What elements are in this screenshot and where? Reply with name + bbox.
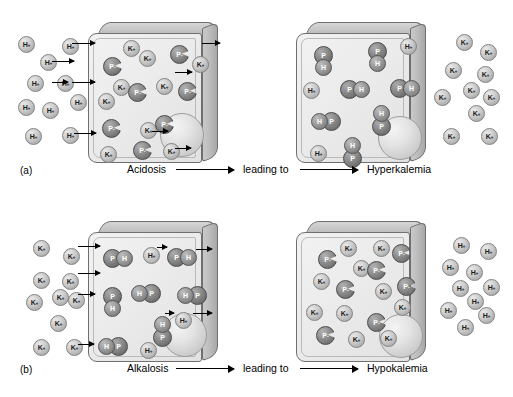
caption-acidosis: Acidosis <box>127 163 166 175</box>
protein-hydrogen-complex: PH <box>102 287 121 316</box>
potassium-ion-extracellular: K+ <box>463 82 480 99</box>
movement-arrow <box>157 247 167 248</box>
potassium-ion-intracellular: K+ <box>156 78 173 95</box>
hydrogen-ion-extracellular: H+ <box>18 36 35 53</box>
potassium-ion-extracellular: K+ <box>33 272 50 289</box>
hydrogen-ion-extracellular: H+ <box>40 54 57 71</box>
potassium-ion-extracellular: K+ <box>62 273 79 290</box>
hydrogen-ion-extracellular: H+ <box>466 264 483 281</box>
hydrogen-ion-intracellular: H+ <box>303 82 320 99</box>
potassium-ion-extracellular: K+ <box>52 289 69 306</box>
potassium-ion-extracellular: K+ <box>63 248 80 265</box>
caption-leading-to: leading to <box>243 362 289 374</box>
potassium-ion-extracellular: K+ <box>434 89 451 106</box>
potassium-ion-extracellular: K+ <box>33 240 50 257</box>
hydrogen-lobe: H <box>180 249 197 266</box>
potassium-ion-intracellular: K+ <box>348 331 365 348</box>
potassium-ion-extracellular: K+ <box>445 62 462 79</box>
protein-hydrogen-complex: PH <box>177 286 207 304</box>
movement-arrow <box>202 43 220 44</box>
movement-arrow <box>78 273 100 274</box>
potassium-ion-intracellular: K+ <box>113 79 130 96</box>
caption-hypokalemia: Hypokalemia <box>367 362 428 374</box>
hydrogen-ion-extracellular: H+ <box>478 307 495 324</box>
potassium-ion-intracellular: K+ <box>313 273 330 290</box>
potassium-ion-extracellular: K+ <box>443 128 460 145</box>
potassium-ion-extracellular: K+ <box>480 44 497 61</box>
potassium-ion-extracellular: K+ <box>468 105 485 122</box>
potassium-ion-extracellular: K+ <box>26 294 43 311</box>
protein-hydrogen-complex: PH <box>342 137 361 166</box>
hydrogen-ion-intracellular: H+ <box>143 247 160 264</box>
potassium-ion-intracellular: K+ <box>123 40 140 57</box>
potassium-ion-intracellular: K+ <box>139 50 156 67</box>
protein-hydrogen-complex: PH <box>131 284 161 302</box>
movement-arrow <box>196 249 212 250</box>
movement-arrow <box>165 313 174 314</box>
potassium-ion-intracellular: K+ <box>394 299 411 316</box>
hydrogen-ion-extracellular: H+ <box>25 128 42 145</box>
protein-hydrogen-complex: PH <box>167 248 197 266</box>
hydrogen-lobe: H <box>373 105 390 122</box>
movement-arrow <box>193 313 212 314</box>
hydrogen-ion-extracellular: H+ <box>42 102 59 119</box>
potassium-ion-extracellular: K+ <box>33 339 50 356</box>
hydrogen-lobe: H <box>353 81 370 98</box>
caption-hyperkalemia: Hyperkalemia <box>367 163 431 175</box>
hydrogen-ion-extracellular: H+ <box>453 237 470 254</box>
potassium-ion-intracellular: K+ <box>373 240 390 257</box>
movement-arrow <box>152 131 168 132</box>
hydrogen-lobe: H <box>116 250 133 267</box>
hydrogen-ion-extracellular: H+ <box>483 279 500 296</box>
protein-hydrogen-complex: PH <box>313 46 332 75</box>
hydrogen-ion-extracellular: H+ <box>62 127 79 144</box>
movement-arrow <box>175 148 191 149</box>
protein-hydrogen-complex: PH <box>103 249 133 267</box>
protein-hydrogen-complex: PH <box>98 337 128 355</box>
hydrogen-ion-extracellular: H+ <box>440 302 457 319</box>
hydrogen-lobe: H <box>311 113 328 130</box>
hydrogen-ion-intracellular: H+ <box>400 38 417 55</box>
protein-hydrogen-complex: PH <box>367 42 386 71</box>
potassium-ion-intracellular: K+ <box>375 283 392 300</box>
caption-leading-to: leading to <box>243 163 289 175</box>
hydrogen-ion-extracellular: H+ <box>452 280 469 297</box>
potassium-ion-intracellular: K+ <box>163 143 180 160</box>
movement-arrow <box>78 246 100 247</box>
hydrogen-ion-extracellular: H+ <box>62 38 79 55</box>
hydrogen-lobe: H <box>131 285 148 302</box>
hydrogen-lobe: H <box>154 316 171 333</box>
hydrogen-lobe: H <box>369 55 386 72</box>
potassium-ion-intracellular: K+ <box>306 304 323 321</box>
movement-arrow <box>72 43 95 44</box>
hydrogen-lobe: H <box>104 300 121 317</box>
potassium-ion-intracellular: K+ <box>100 146 117 163</box>
protein-hydrogen-complex: PH <box>152 316 171 345</box>
hydrogen-ion-extracellular: H+ <box>27 75 44 92</box>
movement-arrow <box>72 82 95 83</box>
caption-arrow-1 <box>176 368 234 369</box>
potassium-ion-extracellular: K+ <box>50 315 67 332</box>
potassium-ion-extracellular: K+ <box>477 66 494 83</box>
protein-hydrogen-complex: PH <box>311 112 341 130</box>
protein-hydrogen-complex: PH <box>371 105 390 134</box>
potassium-ion-intracellular: K+ <box>380 330 397 347</box>
panel-alkalosis: K+K+K+K+K+K+K+K+K+K+PHPHPHPHPHPHPHH+H+H+… <box>0 199 513 397</box>
panel-label-a: (a) <box>20 165 32 176</box>
hydrogen-lobe: H <box>403 80 420 97</box>
panel-label-b: (b) <box>20 364 32 375</box>
potassium-ion-intracellular: K+ <box>192 56 209 73</box>
caption-arrow-1 <box>176 169 234 170</box>
hydrogen-ion-extracellular: H+ <box>442 259 459 276</box>
potassium-ion-intracellular: K+ <box>98 93 115 110</box>
hydrogen-ion-intracellular: H+ <box>175 312 192 329</box>
potassium-ion-extracellular: K+ <box>66 339 83 356</box>
movement-arrow <box>175 72 192 73</box>
protein-hydrogen-complex: PH <box>390 79 420 97</box>
hydrogen-ion-extracellular: H+ <box>457 319 474 336</box>
hydrogen-ion-intracellular: H+ <box>140 342 157 359</box>
caption-arrow-2 <box>300 368 358 369</box>
potassium-ion-extracellular: K+ <box>456 34 473 51</box>
potassium-ion-intracellular: K+ <box>336 305 353 322</box>
movement-arrow <box>78 294 95 295</box>
